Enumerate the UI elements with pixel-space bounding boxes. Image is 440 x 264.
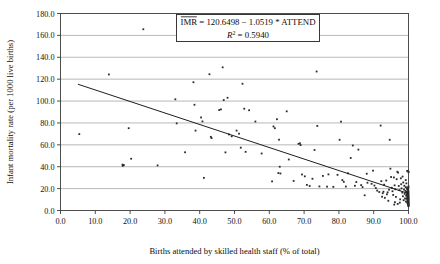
x-axis-ticks — [61, 211, 409, 215]
data-point — [123, 164, 125, 166]
data-point — [220, 108, 222, 110]
data-point — [386, 193, 388, 195]
data-point — [400, 177, 402, 179]
data-point — [193, 81, 195, 83]
equation-annotation: IMR = 120.6498 − 1.0519 * ATTEND R2 = 0.… — [177, 15, 320, 42]
data-point — [184, 151, 186, 153]
data-point — [225, 151, 227, 153]
data-point — [176, 122, 178, 124]
x-axis-tick-label: 90.0 — [367, 217, 381, 226]
y-axis-tick-label: 0.0 — [44, 207, 54, 216]
data-point — [319, 186, 321, 188]
data-point — [393, 177, 395, 179]
y-axis-title: Infant mortality rate (per 1000 live bir… — [5, 40, 15, 184]
data-point — [355, 181, 357, 183]
data-point — [408, 197, 410, 199]
data-point — [354, 185, 356, 187]
data-point — [345, 186, 347, 188]
data-point — [293, 180, 295, 182]
data-point — [340, 121, 342, 123]
data-point — [271, 180, 273, 182]
data-point — [108, 74, 110, 76]
y-axis-tick-label: 60.0 — [40, 141, 54, 150]
data-point — [278, 139, 280, 141]
data-point — [364, 194, 366, 196]
data-point — [384, 197, 386, 199]
data-point — [408, 186, 410, 188]
data-point — [408, 203, 410, 205]
y-axis-tick-label: 180.0 — [36, 10, 54, 19]
data-point — [174, 98, 176, 100]
x-axis-tick-label: 100.0 — [399, 217, 417, 226]
y-axis-tick-labels: 0.020.040.060.080.0100.0120.0140.0160.01… — [36, 10, 54, 216]
x-axis-tick-labels: 0.010.020.030.040.050.060.070.080.090.01… — [55, 217, 417, 226]
data-point — [408, 200, 410, 202]
y-axis-tick-label: 40.0 — [40, 163, 54, 172]
data-point — [402, 176, 404, 178]
data-point — [194, 104, 196, 106]
data-point — [383, 191, 385, 193]
data-point — [371, 183, 373, 185]
data-point — [372, 170, 374, 172]
data-point — [286, 110, 288, 112]
data-point — [322, 175, 324, 177]
data-point — [387, 191, 389, 193]
chart-figure: 0.020.040.060.080.0100.0120.0140.0160.01… — [0, 0, 440, 264]
data-point — [360, 184, 362, 186]
data-point — [209, 73, 211, 75]
data-point — [402, 195, 404, 197]
data-point — [78, 133, 80, 135]
data-point — [387, 200, 389, 202]
data-point — [404, 198, 406, 200]
x-axis-tick-label: 50.0 — [227, 217, 241, 226]
scatter-points — [78, 28, 409, 207]
data-point — [276, 118, 278, 120]
equation-line-1: IMR = 120.6498 − 1.0519 * ATTEND — [180, 17, 315, 27]
data-point — [337, 174, 339, 176]
equation-body: = 120.6498 − 1.0519 * ATTEND — [197, 17, 315, 27]
data-point — [200, 117, 202, 119]
x-axis-tick-label: 40.0 — [193, 217, 207, 226]
data-point — [203, 177, 205, 179]
data-point — [394, 184, 396, 186]
data-point — [343, 181, 345, 183]
data-point — [398, 185, 400, 187]
data-point — [374, 185, 376, 187]
scatter-plot-svg: 0.020.040.060.080.0100.0120.0140.0160.01… — [0, 0, 440, 264]
data-point — [375, 187, 377, 189]
data-point — [274, 127, 276, 129]
data-point — [397, 172, 399, 174]
y-axis-tick-label: 160.0 — [36, 31, 54, 40]
data-point — [405, 186, 407, 188]
data-point — [350, 157, 352, 159]
data-point — [352, 145, 354, 147]
x-axis-tick-label: 70.0 — [297, 217, 311, 226]
data-point — [280, 173, 282, 175]
y-axis-tick-label: 120.0 — [36, 75, 54, 84]
x-axis-tick-label: 20.0 — [123, 217, 137, 226]
data-point — [142, 28, 144, 30]
data-point — [399, 198, 401, 200]
data-point — [381, 196, 383, 198]
x-axis-title: Births attended by skilled health staff … — [149, 246, 319, 256]
data-point — [339, 139, 341, 141]
y-axis-tick-label: 100.0 — [36, 97, 54, 106]
data-point — [389, 139, 391, 141]
data-point — [406, 182, 408, 184]
data-point — [248, 109, 250, 111]
data-point — [301, 174, 303, 176]
data-point — [385, 180, 387, 182]
data-point — [376, 190, 378, 192]
data-point — [195, 130, 197, 132]
data-point — [332, 186, 334, 188]
data-point — [408, 195, 410, 197]
data-point — [378, 191, 380, 193]
data-point — [406, 170, 408, 172]
data-point — [236, 130, 238, 132]
data-point — [328, 173, 330, 175]
r-squared-value: = 0.5940 — [235, 30, 269, 40]
data-point — [357, 149, 359, 151]
data-point — [245, 151, 247, 153]
data-point — [279, 166, 281, 168]
data-point — [394, 201, 396, 203]
